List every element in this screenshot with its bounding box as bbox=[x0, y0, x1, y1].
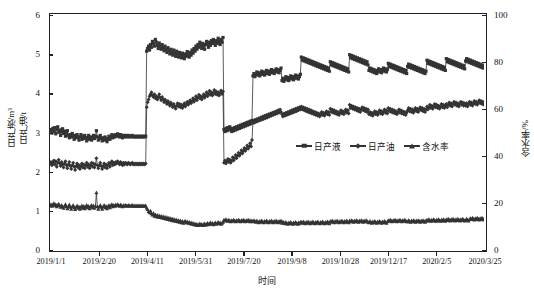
series-日产油 bbox=[50, 88, 484, 172]
x-tick-mark-8 bbox=[436, 252, 437, 256]
legend-label-watercut: 含水率 bbox=[422, 140, 449, 152]
legend-swatch-square-icon bbox=[296, 145, 312, 146]
series-日产液 bbox=[50, 36, 484, 143]
y-tick-left-4: 4 bbox=[36, 88, 41, 98]
x-tick-6: 2019/10/28 bbox=[322, 257, 359, 266]
x-tick-4: 2019/7/20 bbox=[227, 257, 260, 266]
y-tick-mark-right bbox=[482, 15, 486, 16]
y-tick-right-20: 20 bbox=[494, 198, 503, 208]
y-tick-left-3: 3 bbox=[36, 128, 41, 138]
x-tick-7: 2019/12/17 bbox=[370, 257, 407, 266]
legend-label-liquid: 日产液 bbox=[314, 140, 341, 152]
x-tick-9: 2020/3/25 bbox=[468, 257, 501, 266]
legend-label-oil: 日产油 bbox=[368, 140, 395, 152]
x-axis-ticklabels: 2019/1/12019/2/202019/4/112019/5/312019/… bbox=[0, 252, 534, 274]
y-tick-mark-left bbox=[49, 133, 53, 134]
x-tick-mark-2 bbox=[147, 252, 148, 256]
x-tick-mark-1 bbox=[99, 252, 100, 256]
y-tick-mark-right bbox=[482, 109, 486, 110]
x-tick-2: 2019/4/11 bbox=[131, 257, 164, 266]
y-axis-right-ticklabels: 020406080100 bbox=[487, 0, 527, 252]
y-tick-left-2: 2 bbox=[36, 167, 41, 177]
x-tick-1: 2019/2/20 bbox=[83, 257, 116, 266]
y-tick-mark-right bbox=[482, 250, 486, 251]
plot-area bbox=[49, 13, 487, 252]
plot-inner bbox=[50, 14, 486, 251]
x-tick-mark-3 bbox=[195, 252, 196, 256]
y-tick-mark-left bbox=[49, 15, 53, 16]
chart-figure: 日产液/m³ 日产油/t 含水率/% 时间 0123456 0204060801… bbox=[0, 0, 534, 291]
y-tick-mark-right bbox=[482, 203, 486, 204]
y-tick-mark-right bbox=[482, 156, 486, 157]
y-axis-left-ticklabels: 0123456 bbox=[0, 0, 49, 252]
x-tick-mark-6 bbox=[340, 252, 341, 256]
x-tick-3: 2019/5/31 bbox=[179, 257, 212, 266]
legend-swatch-diamond-icon bbox=[350, 145, 366, 146]
legend-item-oil[interactable]: 日产油 bbox=[350, 140, 395, 152]
y-tick-mark-left bbox=[49, 172, 53, 173]
x-tick-mark-5 bbox=[291, 252, 292, 256]
y-tick-right-40: 40 bbox=[494, 151, 503, 161]
legend-item-watercut[interactable]: 含水率 bbox=[404, 140, 449, 152]
x-tick-5: 2019/9/8 bbox=[278, 257, 307, 266]
x-tick-0: 2019/1/1 bbox=[36, 257, 65, 266]
legend-item-liquid[interactable]: 日产液 bbox=[296, 140, 341, 152]
y-tick-mark-left bbox=[49, 211, 53, 212]
x-tick-mark-4 bbox=[243, 252, 244, 256]
y-tick-mark-right bbox=[482, 62, 486, 63]
x-axis-title: 时间 bbox=[0, 274, 534, 287]
y-tick-mark-left bbox=[49, 250, 53, 251]
series-含水率 bbox=[50, 190, 484, 227]
series-canvas bbox=[50, 14, 484, 249]
y-tick-right-100: 100 bbox=[494, 10, 508, 20]
y-tick-right-80: 80 bbox=[494, 57, 503, 67]
x-tick-8: 2020/2/5 bbox=[422, 257, 451, 266]
y-tick-right-60: 60 bbox=[494, 104, 503, 114]
legend-swatch-triangle-icon bbox=[404, 145, 420, 146]
y-tick-mark-left bbox=[49, 93, 53, 94]
x-tick-mark-7 bbox=[388, 252, 389, 256]
y-tick-mark-left bbox=[49, 54, 53, 55]
chart-legend: 日产液 日产油 含水率 bbox=[296, 140, 449, 152]
y-tick-left-5: 5 bbox=[36, 49, 41, 59]
y-tick-left-1: 1 bbox=[36, 206, 41, 216]
y-tick-left-6: 6 bbox=[36, 10, 41, 20]
